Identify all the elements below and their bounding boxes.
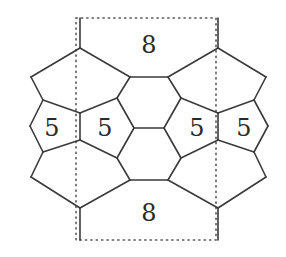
edge [80, 48, 130, 77]
edge [168, 180, 218, 208]
edge [117, 158, 130, 180]
edge [218, 177, 266, 208]
edge [117, 77, 130, 98]
bottom-octagon-label: 8 [141, 199, 156, 227]
edge [164, 128, 181, 158]
edge [254, 126, 268, 152]
pentagon-label-4: 5 [236, 114, 251, 142]
pentagon-label-2: 5 [97, 114, 112, 142]
pentagon-label-1: 5 [44, 114, 59, 142]
edge [181, 98, 218, 113]
edge [30, 100, 43, 126]
edge [31, 177, 80, 208]
edge [80, 98, 117, 113]
edge [31, 48, 80, 77]
edge [218, 100, 254, 113]
edge [80, 140, 117, 158]
edge [80, 180, 130, 208]
top-octagon-label: 8 [141, 31, 156, 59]
edge [254, 100, 268, 126]
edge [43, 100, 80, 113]
edge [164, 98, 181, 128]
edge [168, 48, 218, 77]
diagram-canvas: 885555 [0, 0, 286, 257]
edge [117, 98, 134, 128]
fullerene-patch-diagram: 885555 [0, 0, 286, 257]
edge [30, 126, 43, 152]
edge [254, 152, 266, 177]
edge [117, 128, 134, 158]
pentagon-label-3: 5 [189, 114, 204, 142]
edge [168, 77, 181, 98]
edge [168, 158, 181, 180]
edge [254, 77, 266, 100]
edge [31, 77, 43, 100]
edge [218, 48, 266, 77]
edge [31, 152, 43, 177]
edge [181, 140, 218, 158]
